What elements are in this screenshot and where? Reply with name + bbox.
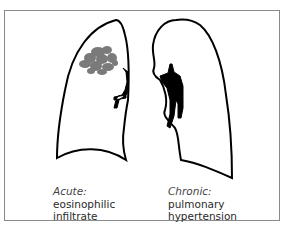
acute-heading: Acute: (53, 185, 115, 198)
right-lung-outline (153, 20, 232, 178)
chronic-description-line1: pulmonary (168, 198, 237, 211)
lungs-illustration (0, 0, 295, 226)
acute-description-line2: infiltrate (53, 210, 115, 223)
acute-label: Acute: eosinophilic infiltrate (53, 185, 115, 223)
eosinophilic-infiltrate (79, 46, 118, 75)
chronic-heading: Chronic: (168, 185, 237, 198)
enlarged-pulmonary-artery (160, 64, 183, 128)
left-hilar-vessels (114, 68, 128, 108)
chronic-description-line2: hypertension (168, 210, 237, 223)
left-lung-outline (57, 20, 129, 160)
acute-description-line1: eosinophilic (53, 198, 115, 211)
chronic-label: Chronic: pulmonary hypertension (168, 185, 237, 223)
